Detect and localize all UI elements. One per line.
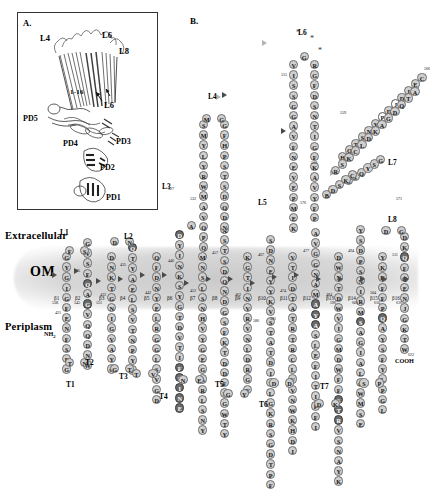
residue-S: S: [220, 181, 229, 190]
residue-A: A: [311, 299, 320, 308]
residue-T: T: [128, 253, 137, 262]
residue-D: D: [220, 212, 229, 221]
residue-Y: Y: [198, 425, 207, 434]
residue-D: D: [266, 449, 275, 458]
domain-label-pd4: PD4: [63, 139, 78, 148]
residue-D: D: [266, 357, 275, 366]
residue-K: K: [400, 242, 409, 251]
marker-triangle: [294, 272, 299, 278]
residue-number: 527: [168, 186, 174, 191]
marker-triangle-open: [330, 170, 335, 176]
residue-F: F: [311, 361, 320, 370]
residue-S: S: [266, 235, 275, 244]
residue-A: A: [266, 337, 275, 346]
residue-D: D: [152, 272, 161, 281]
residue-I: I: [107, 313, 116, 322]
residue-V: V: [311, 238, 320, 247]
residue-D: D: [381, 226, 390, 235]
residue-D: D: [83, 340, 92, 349]
residue-F: F: [62, 334, 71, 343]
residue-F: F: [62, 303, 71, 312]
residue-W: W: [334, 364, 343, 373]
residue-P: P: [128, 345, 137, 354]
residue-R: R: [310, 60, 319, 69]
marker-triangle: [140, 272, 145, 278]
residue-Y: Y: [378, 334, 387, 343]
residue-M: M: [199, 130, 208, 139]
residue-F: F: [220, 327, 229, 336]
residue-W: W: [199, 181, 208, 190]
residue-G: G: [243, 374, 252, 383]
residue-Q: Q: [199, 222, 208, 231]
residue-T: T: [288, 262, 297, 271]
residue-A: A: [311, 320, 320, 329]
n-terminus-text: NH: [44, 330, 53, 337]
residue-N: N: [178, 375, 187, 384]
residue-G: G: [198, 344, 207, 353]
residue-A: A: [311, 228, 320, 237]
n-terminus-label: NH2: [44, 330, 56, 339]
domain-label-pd1: PD1: [106, 193, 121, 202]
residue-I: I: [311, 371, 320, 380]
residue-G: G: [175, 301, 184, 310]
residue-D: D: [220, 296, 229, 305]
residue-N: N: [175, 393, 184, 402]
turn-label-t1: T1: [66, 380, 75, 389]
residue-D: D: [314, 399, 323, 408]
residue-A: A: [356, 327, 365, 336]
structure-label-l8: L8: [119, 46, 129, 56]
marker-triangle: [222, 92, 227, 98]
residue-N: N: [198, 415, 207, 424]
strand-label-10: β10: [258, 295, 266, 301]
residue-S: S: [310, 101, 319, 110]
residue-S: S: [311, 330, 320, 339]
residue-T: T: [311, 381, 320, 390]
residue-F: F: [334, 374, 343, 383]
residue-L: L: [356, 368, 365, 377]
asterisk-marker: *: [310, 34, 314, 43]
residue-A: A: [378, 323, 387, 332]
residue-K: K: [289, 223, 298, 232]
residue-F: F: [175, 363, 184, 372]
domain-label-pd2: PD2: [100, 163, 115, 172]
residue-Y: Y: [334, 466, 343, 475]
residue-G: G: [243, 262, 252, 271]
residue-R: R: [288, 344, 297, 353]
structure-label-l6-arrow: L6: [104, 100, 114, 110]
strand-label-8: β8: [212, 295, 217, 301]
residue-R: R: [266, 419, 275, 428]
residue-K: K: [334, 476, 343, 485]
residue-G: G: [152, 334, 161, 343]
residue-I: I: [356, 286, 365, 295]
marker-triangle: [382, 276, 387, 282]
turn-label-t5: T5: [215, 380, 224, 389]
residue-N: N: [288, 395, 297, 404]
strand-label-6: β6: [167, 295, 172, 301]
residue-H: H: [288, 425, 297, 434]
residue-D: D: [288, 436, 297, 445]
residue-C: C: [417, 73, 426, 82]
residue-N: N: [220, 286, 229, 295]
residue-number: 452: [190, 288, 196, 293]
residue-M: M: [199, 191, 208, 200]
residue-T: T: [400, 334, 409, 343]
residue-D: D: [175, 230, 184, 239]
residue-N: N: [243, 334, 252, 343]
residue-Y: Y: [311, 310, 320, 319]
residue-E: E: [62, 313, 71, 322]
marker-triangle: [74, 268, 79, 274]
residue-K: K: [288, 415, 297, 424]
residue-Y: Y: [240, 389, 249, 398]
residue-T: T: [220, 419, 229, 428]
residue-D: D: [175, 322, 184, 331]
residue-V: V: [83, 309, 92, 318]
residue-W: W: [288, 405, 297, 414]
residue-G: G: [310, 142, 319, 151]
residue-N: N: [107, 303, 116, 312]
residue-G: G: [300, 52, 309, 61]
residue-R: R: [152, 323, 161, 332]
residue-Q: Q: [400, 252, 409, 261]
residue-N: N: [107, 262, 116, 271]
residue-L: L: [199, 151, 208, 160]
residue-Y: Y: [220, 429, 229, 438]
